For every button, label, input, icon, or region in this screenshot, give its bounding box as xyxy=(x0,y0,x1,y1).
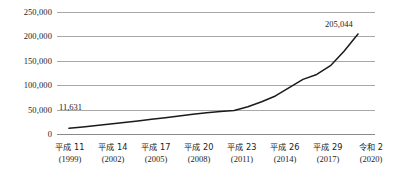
x-tick-year-label: (2020) xyxy=(343,153,396,165)
y-tick-label: 100,000 xyxy=(0,81,52,90)
x-tick-2020: 令和 2 (2020) xyxy=(343,141,396,165)
y-axis: 250,000 200,000 150,000 100,000 50,000 0 xyxy=(0,0,52,140)
annotation-end-value: 205,044 xyxy=(325,20,353,29)
annotation-start-value: 11,631 xyxy=(59,103,82,112)
y-tick-label: 250,000 xyxy=(0,8,52,17)
line-chart: 250,000 200,000 150,000 100,000 50,000 0… xyxy=(0,0,396,191)
x-tick-era-label: 令和 2 xyxy=(343,141,396,153)
y-tick-label: 200,000 xyxy=(0,32,52,41)
x-axis: 平成 11 (1999) 平成 14 (2002) 平成 17 (2005) 平… xyxy=(57,141,375,191)
y-tick-label: 0 xyxy=(0,130,52,139)
y-tick-label: 150,000 xyxy=(0,57,52,66)
y-tick-label: 50,000 xyxy=(0,106,52,115)
plot-area: 11,631 205,044 xyxy=(57,0,375,140)
